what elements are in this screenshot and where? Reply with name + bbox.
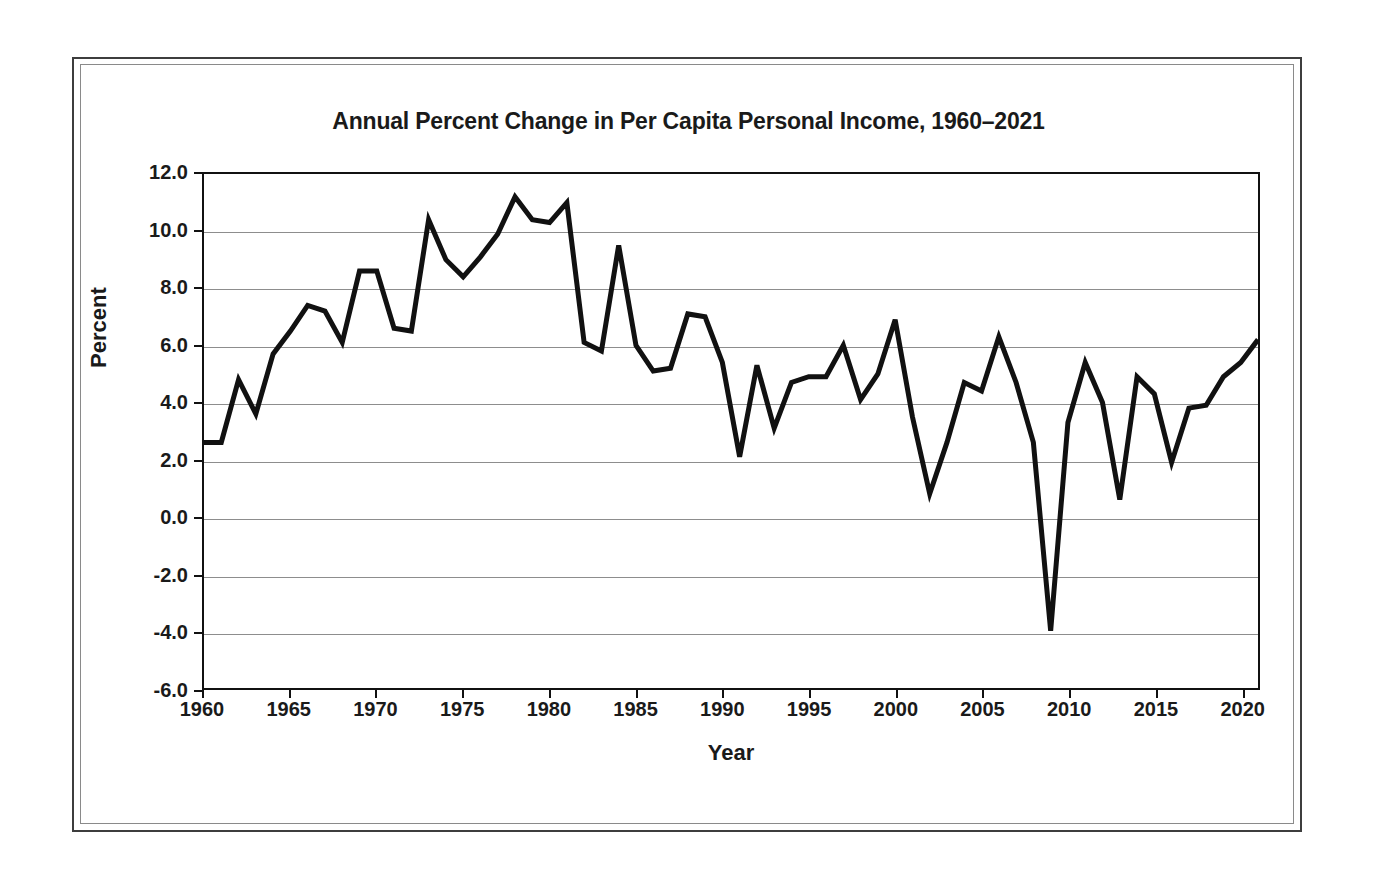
- x-tick-mark: [202, 690, 204, 698]
- x-axis-tick-labels: 1960196519701975198019851990199520002005…: [202, 698, 1260, 728]
- x-tick-label: 1980: [509, 698, 589, 721]
- y-tick-label: 12.0: [118, 161, 188, 184]
- x-tick-mark: [809, 690, 811, 698]
- x-axis-title: Year: [202, 740, 1260, 766]
- x-tick-label: 2020: [1203, 698, 1283, 721]
- x-tick-mark: [1156, 690, 1158, 698]
- x-tick-mark: [462, 690, 464, 698]
- x-tick-mark: [289, 690, 291, 698]
- y-tick-label: 8.0: [118, 276, 188, 299]
- x-tick-mark: [636, 690, 638, 698]
- x-tick-mark: [1069, 690, 1071, 698]
- x-tick-label: 1995: [769, 698, 849, 721]
- y-axis-title: Percent: [86, 287, 112, 368]
- x-tick-label: 1985: [596, 698, 676, 721]
- y-tick-label: 10.0: [118, 219, 188, 242]
- plot-area: [202, 172, 1260, 690]
- x-tick-mark: [1243, 690, 1245, 698]
- x-tick-label: 2010: [1029, 698, 1109, 721]
- data-series-line: [204, 174, 1258, 688]
- x-tick-label: 1970: [335, 698, 415, 721]
- y-tick-label: 6.0: [118, 334, 188, 357]
- y-axis-tick-labels: 12.010.08.06.04.02.00.0-2.0-4.0-6.0: [112, 172, 188, 690]
- x-tick-label: 2000: [856, 698, 936, 721]
- y-tick-label: -4.0: [118, 621, 188, 644]
- chart-title: Annual Percent Change in Per Capita Pers…: [0, 108, 1377, 135]
- x-tick-label: 1975: [422, 698, 502, 721]
- y-tick-label: 4.0: [118, 391, 188, 414]
- x-tick-label: 2015: [1116, 698, 1196, 721]
- x-tick-mark: [896, 690, 898, 698]
- y-tick-label: -2.0: [118, 564, 188, 587]
- y-tick-label: 2.0: [118, 449, 188, 472]
- x-tick-mark: [722, 690, 724, 698]
- x-tick-label: 1965: [249, 698, 329, 721]
- x-tick-mark: [982, 690, 984, 698]
- x-tick-label: 1990: [682, 698, 762, 721]
- x-tick-mark: [549, 690, 551, 698]
- x-tick-label: 2005: [942, 698, 1022, 721]
- chart-page: Annual Percent Change in Per Capita Pers…: [0, 0, 1377, 883]
- x-tick-label: 1960: [162, 698, 242, 721]
- y-tick-label: 0.0: [118, 506, 188, 529]
- x-tick-mark: [375, 690, 377, 698]
